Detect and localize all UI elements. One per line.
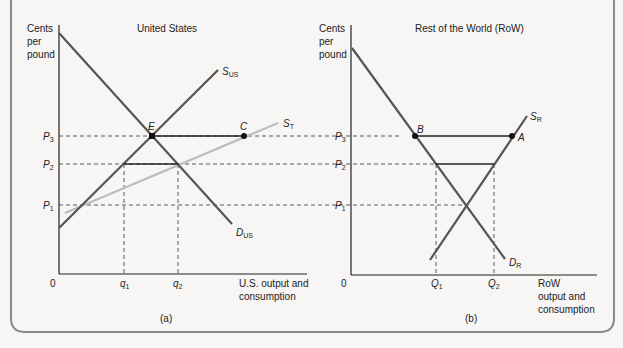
label-s-r: SR — [530, 111, 542, 123]
x-axis-label-line2: consumption — [239, 291, 296, 302]
panel-title: Rest of the World (RoW) — [415, 23, 524, 34]
caption-a: (a) — [160, 313, 172, 324]
x-axis-label-line2: output and — [538, 291, 585, 302]
label-e: E — [148, 121, 155, 132]
x-axis-label-line1: RoW — [538, 278, 561, 289]
origin-label: 0 — [50, 278, 56, 289]
panel-rest-of-world: Cents per pound Rest of the World (RoW) … — [319, 23, 597, 324]
y-axis-label-line3: pound — [319, 49, 347, 60]
y-axis-label-line3: pound — [27, 49, 55, 60]
panel-title: United States — [137, 23, 197, 34]
label-d-r: DR — [509, 257, 521, 269]
label-d-us: DUS — [236, 227, 253, 239]
label-q1: q1 — [120, 278, 130, 290]
label-s-t: ST — [283, 118, 295, 130]
trade-equilibrium-figure: Cents per pound United States E C SUS ST… — [0, 0, 623, 348]
label-b: B — [417, 124, 424, 135]
x-axis-label-line1: U.S. output and — [239, 278, 309, 289]
label-p3: P3 — [43, 131, 54, 143]
label-p1: P1 — [43, 200, 54, 212]
point-e — [149, 133, 155, 139]
point-a — [509, 133, 515, 139]
label-q2: q2 — [173, 278, 183, 290]
label-q1: Q1 — [431, 278, 443, 290]
y-axis-label-line1: Cents — [27, 23, 53, 34]
caption-b: (b) — [465, 313, 477, 324]
label-c: C — [240, 121, 248, 132]
label-p3: P3 — [335, 131, 346, 143]
label-s-us: SUS — [222, 66, 239, 78]
y-axis-label-line2: per — [27, 36, 42, 47]
row-demand-curve — [352, 48, 505, 259]
label-p2: P2 — [335, 159, 346, 171]
label-q2: Q2 — [488, 278, 500, 290]
label-a: A — [517, 132, 525, 143]
figure-frame — [11, 0, 614, 332]
label-p1: P1 — [335, 200, 346, 212]
label-p2: P2 — [43, 159, 54, 171]
us-demand-curve — [59, 33, 232, 224]
panel-united-states: Cents per pound United States E C SUS ST… — [27, 23, 466, 324]
origin-label: 0 — [341, 278, 347, 289]
x-axis-label-line3: consumption — [538, 304, 595, 315]
point-c — [241, 133, 247, 139]
y-axis-label-line1: Cents — [319, 23, 345, 34]
y-axis-label-line2: per — [319, 36, 334, 47]
us-supply-curve — [59, 70, 218, 228]
